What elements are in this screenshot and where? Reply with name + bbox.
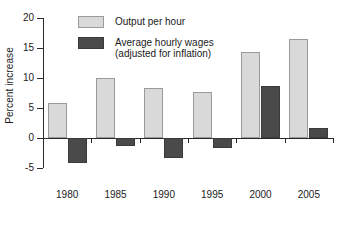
y-axis-title: Percent increase <box>2 0 16 170</box>
bar-2005-series-1 <box>289 39 308 138</box>
bar-1995-series-2 <box>213 138 232 148</box>
legend-swatch-light-icon <box>78 16 104 28</box>
bar-1990-series-2 <box>164 138 183 158</box>
bar-2005-series-2 <box>309 128 328 138</box>
legend-label-average-hourly-wages: Average hourly wages (adjusted for infla… <box>115 37 214 59</box>
chart-legend: Output per hour Average hourly wages (ad… <box>78 16 214 68</box>
x-axis-tick-label-1990: 1990 <box>142 190 186 200</box>
bar-1980-series-1 <box>48 103 67 138</box>
y-axis-tick <box>37 168 43 169</box>
legend-swatch-dark-icon <box>78 37 104 49</box>
bar-chart: Percent increase -505101520 198019851990… <box>0 0 346 230</box>
y-axis-tick-label: 20 <box>4 13 34 23</box>
bar-1985-series-1 <box>96 78 115 138</box>
y-axis-tick-label: 0 <box>4 133 34 143</box>
legend-label-output-per-hour: Output per hour <box>115 16 185 27</box>
x-axis-tick-label-1980: 1980 <box>45 190 89 200</box>
legend-label-main: Output per hour <box>115 16 185 27</box>
x-axis-tick-label-2005: 2005 <box>287 190 331 200</box>
y-axis-tick-label: 5 <box>4 103 34 113</box>
x-axis-tick-label-1995: 1995 <box>190 190 234 200</box>
bar-1985-series-2 <box>116 138 135 146</box>
x-axis-tick-label-2000: 2000 <box>239 190 283 200</box>
y-axis-tick-label: 15 <box>4 43 34 53</box>
legend-item-output-per-hour: Output per hour <box>78 16 214 28</box>
bar-1990-series-1 <box>144 88 163 138</box>
bar-1995-series-1 <box>193 92 212 138</box>
y-axis-tick-label: -5 <box>4 163 34 173</box>
x-axis-tick <box>333 138 334 143</box>
legend-item-average-hourly-wages: Average hourly wages (adjusted for infla… <box>78 37 214 59</box>
bar-2000-series-2 <box>261 86 280 138</box>
legend-label-sub: (adjusted for inflation) <box>115 48 214 59</box>
bar-1980-series-2 <box>68 138 87 163</box>
x-axis-tick-label-1985: 1985 <box>94 190 138 200</box>
y-axis-tick-label: 10 <box>4 73 34 83</box>
bar-2000-series-1 <box>241 52 260 138</box>
legend-label-main: Average hourly wages <box>115 37 214 48</box>
